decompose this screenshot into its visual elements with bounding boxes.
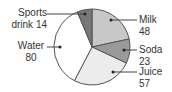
label-milk-value: 48 xyxy=(139,26,157,38)
label-soda: Soda 23 xyxy=(139,44,162,68)
label-sports-line2: drink 14 xyxy=(5,19,47,31)
label-water-name: Water xyxy=(14,40,48,52)
label-milk: Milk 48 xyxy=(139,14,157,38)
dot-milk xyxy=(110,19,113,22)
label-water: Water 80 xyxy=(14,40,48,64)
label-sports-drink: Sports drink 14 xyxy=(13,7,47,31)
label-water-value: 80 xyxy=(14,52,48,64)
dot-juice xyxy=(112,71,115,74)
label-sports-line1: Sports xyxy=(13,7,47,19)
label-juice-name: Juice xyxy=(139,66,162,78)
label-juice: Juice 57 xyxy=(139,66,162,90)
dot-soda xyxy=(123,49,126,52)
dot-water xyxy=(59,46,62,49)
dot-sports xyxy=(84,13,87,16)
label-milk-name: Milk xyxy=(139,14,157,26)
label-juice-value: 57 xyxy=(139,78,162,90)
label-soda-name: Soda xyxy=(139,44,162,56)
